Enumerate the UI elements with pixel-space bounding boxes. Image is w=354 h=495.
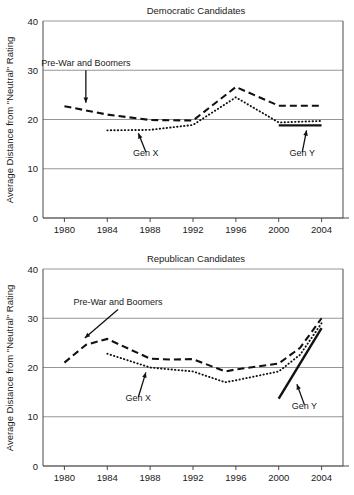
series-line-pre-war-and-boomers <box>64 318 321 371</box>
panel-republican-candidates: Average Distance from "Neutral" Rating R… <box>0 248 354 495</box>
x-tick-labels: 1980 1984 1988 1992 1996 2000 2004 <box>54 224 332 235</box>
y-tick-20: 20 <box>27 114 38 125</box>
annotation-arrow-head-gen-y <box>297 384 301 390</box>
x-tick-1996: 1996 <box>225 472 246 483</box>
x-tick-marks <box>64 466 321 470</box>
annotation-arrow-head-gen-x <box>142 372 146 378</box>
chart-democratic-candidates: Average Distance from "Neutral" Rating D… <box>0 0 354 247</box>
x-tick-marks <box>64 218 321 222</box>
annotation-label-gen-y: Gen Y <box>292 401 317 411</box>
x-tick-2004: 2004 <box>311 224 332 235</box>
series-line-gen-x <box>107 323 321 382</box>
annotation-label-gen-x: Gen X <box>133 148 159 158</box>
chart-republican-candidates: Average Distance from "Neutral" Rating R… <box>0 248 354 495</box>
y-tick-labels: 40 30 20 10 0 <box>27 264 38 472</box>
y-tick-40: 40 <box>27 264 38 275</box>
y-axis-label: Average Distance from "Neutral" Rating <box>4 285 15 452</box>
y-tick-30: 30 <box>27 65 38 76</box>
x-tick-1980: 1980 <box>54 472 75 483</box>
y-tick-30: 30 <box>27 313 38 324</box>
x-tick-2004: 2004 <box>311 472 332 483</box>
annotation-label-pre-war-and-boomers: Pre-War and Boomers <box>41 58 131 68</box>
x-tick-1992: 1992 <box>182 224 203 235</box>
y-tick-0: 0 <box>33 213 38 224</box>
x-tick-1984: 1984 <box>97 224 118 235</box>
annotation-arrow-shaft-pre-war-and-boomers <box>85 309 118 338</box>
annotation-label-pre-war-and-boomers: Pre-War and Boomers <box>73 297 163 307</box>
y-tick-labels: 40 30 20 10 0 <box>27 16 38 224</box>
annotation-arrow-head-pre-war-and-boomers <box>84 98 89 103</box>
y-tick-0: 0 <box>33 461 38 472</box>
chart-title: Democratic Candidates <box>147 5 246 16</box>
panel-democratic-candidates: Average Distance from "Neutral" Rating D… <box>0 0 354 247</box>
y-tick-40: 40 <box>27 16 38 27</box>
x-tick-1988: 1988 <box>140 472 161 483</box>
x-tick-1984: 1984 <box>97 472 118 483</box>
chart-title: Republican Candidates <box>147 253 245 264</box>
x-tick-2000: 2000 <box>268 224 289 235</box>
data-series-group <box>64 87 321 130</box>
x-tick-1992: 1992 <box>182 472 203 483</box>
x-tick-1988: 1988 <box>140 224 161 235</box>
annotations-group: Pre-War and BoomersGen XGen Y <box>41 58 315 158</box>
x-tick-2000: 2000 <box>268 472 289 483</box>
annotation-arrow-head-gen-y <box>303 130 308 136</box>
y-axis-label: Average Distance from "Neutral" Rating <box>4 37 15 204</box>
x-tick-labels: 1980 1984 1988 1992 1996 2000 2004 <box>54 472 332 483</box>
y-tick-10: 10 <box>27 411 38 422</box>
y-tick-20: 20 <box>27 362 38 373</box>
figure-two-panel-line-charts: Average Distance from "Neutral" Rating D… <box>0 0 354 495</box>
grid-lines <box>43 21 343 218</box>
data-series-group <box>64 318 321 398</box>
series-line-pre-war-and-boomers <box>64 87 321 120</box>
annotation-label-gen-x: Gen X <box>126 393 152 403</box>
y-tick-10: 10 <box>27 163 38 174</box>
x-tick-1980: 1980 <box>54 224 75 235</box>
x-tick-1996: 1996 <box>225 224 246 235</box>
